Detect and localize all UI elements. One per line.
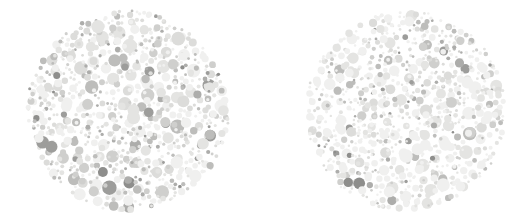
plate-dot	[381, 170, 385, 174]
plate-dot	[163, 132, 174, 143]
plate-dot	[392, 59, 396, 63]
plate-dot	[399, 149, 412, 162]
plate-dot	[453, 151, 457, 155]
plate-dot	[404, 180, 407, 183]
plate-dot	[492, 112, 498, 118]
plate-dot	[201, 51, 205, 55]
plate-dot	[194, 53, 197, 56]
plate-dot	[421, 89, 426, 94]
plate-dot	[76, 106, 82, 112]
plate-dot	[317, 85, 320, 88]
plate-dot	[185, 167, 193, 175]
plate-dot	[425, 121, 429, 125]
plate-dot	[39, 66, 43, 70]
plate-dot	[98, 54, 101, 57]
plate-dot	[478, 147, 481, 150]
plate-dot	[461, 140, 465, 144]
plate-dot	[145, 47, 148, 50]
plate-dot	[465, 66, 468, 69]
plate-dot	[437, 75, 442, 80]
plate-dot	[146, 124, 151, 129]
plate-dot	[128, 101, 131, 104]
plate-dot	[122, 44, 127, 49]
plate-dot	[181, 86, 185, 90]
plate-dot	[403, 16, 406, 19]
plate-dot	[170, 173, 173, 176]
plate-dot	[186, 36, 191, 41]
plate-dot	[429, 34, 436, 41]
plate-dot	[469, 65, 473, 69]
plate-dot	[452, 165, 456, 169]
plate-dot	[165, 27, 169, 31]
plate-dot	[466, 83, 469, 86]
plate-dot	[379, 165, 390, 176]
plate-dot	[48, 73, 51, 76]
plate-dot	[385, 101, 390, 106]
plate-dot	[93, 150, 96, 153]
plate-dot	[387, 139, 391, 143]
plate-dot	[434, 47, 440, 53]
plate-dot	[329, 146, 334, 151]
plate-dot	[146, 13, 151, 18]
plate-dot	[84, 133, 87, 136]
plate-dot	[85, 125, 90, 130]
plate-dot	[363, 149, 368, 154]
plate-dot	[430, 202, 433, 205]
plate-dot	[359, 97, 362, 100]
plate-dot	[380, 13, 384, 17]
plate-dot	[376, 139, 378, 141]
plate-dot	[392, 150, 395, 153]
plate-dot	[393, 102, 398, 107]
plate-dot	[178, 185, 181, 188]
plate-dot	[75, 146, 83, 154]
plate-dot	[487, 89, 493, 95]
plate-dot	[371, 89, 377, 95]
plate-dot	[178, 188, 185, 195]
plate-dot	[409, 131, 418, 140]
plate-dot	[391, 133, 395, 137]
plate-dot	[52, 64, 59, 71]
plate-dot	[76, 168, 79, 171]
plate-dot	[175, 55, 178, 58]
plate-dot	[143, 125, 147, 129]
plate-dot	[46, 141, 58, 153]
plate-dot	[32, 110, 37, 115]
plate-dot	[325, 94, 329, 98]
plate-dot	[453, 113, 458, 118]
plate-dot	[397, 24, 400, 27]
plate-dot	[187, 105, 193, 111]
plate-dot	[212, 82, 218, 88]
plate-dot	[162, 60, 166, 64]
plate-dot	[119, 206, 125, 212]
plate-dot	[386, 32, 389, 35]
plate-dot	[221, 119, 224, 122]
plate-dot	[78, 81, 81, 84]
plate-dot	[450, 175, 455, 180]
plate-dot	[117, 112, 120, 115]
plate-dot	[449, 53, 453, 57]
plate-dot	[100, 101, 106, 107]
plate-dot	[436, 105, 440, 109]
plate-dot	[483, 146, 487, 150]
plate-dot	[128, 88, 132, 92]
plate-dot	[437, 123, 440, 126]
plate-dot	[430, 114, 432, 116]
plate-dot	[162, 161, 165, 164]
plate-dot	[329, 158, 332, 161]
plate-dot	[370, 118, 372, 120]
plate-dot	[475, 126, 478, 129]
plate-dot	[112, 97, 115, 100]
plate-dot	[333, 129, 336, 132]
plate-dot	[444, 72, 452, 80]
plate-dot	[350, 168, 356, 174]
plate-dot	[80, 21, 84, 25]
plate-dot	[307, 109, 311, 113]
plate-dot	[56, 113, 59, 116]
plate-dot	[160, 26, 163, 29]
plate-dot	[180, 135, 184, 139]
plate-dot	[177, 95, 189, 107]
plate-dot	[446, 56, 450, 60]
plate-dot	[126, 161, 129, 164]
plate-dot	[486, 158, 489, 161]
plate-dot	[107, 50, 111, 54]
